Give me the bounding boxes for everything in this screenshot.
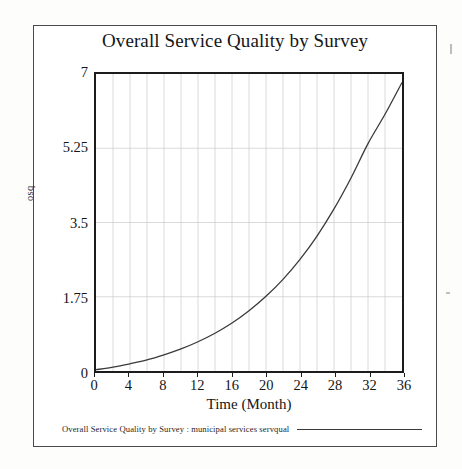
x-tick-label: 12 <box>190 377 205 394</box>
x-tick-mark <box>301 373 302 377</box>
x-tick-mark <box>197 373 198 377</box>
series-line-osq <box>96 74 402 371</box>
y-tick-label: 1.75 <box>36 289 88 306</box>
x-tick-label: 28 <box>328 377 343 394</box>
x-tick-mark <box>232 373 233 377</box>
x-tick-mark <box>370 373 371 377</box>
legend-item-label: Overall Service Quality by Survey : muni… <box>62 424 289 434</box>
x-tick-mark <box>128 373 129 377</box>
x-axis-tick-labels: 04812162024283236 <box>94 377 404 397</box>
x-tick-label: 20 <box>259 377 274 394</box>
y-tick-label: 7 <box>36 64 88 81</box>
plot-inner <box>96 74 402 371</box>
legend: Overall Service Quality by Survey : muni… <box>62 424 422 434</box>
x-tick-mark <box>163 373 164 377</box>
x-axis-title: Time (Month) <box>94 396 404 413</box>
x-tick-mark <box>266 373 267 377</box>
x-tick-mark <box>404 373 405 377</box>
x-tick-label: 24 <box>293 377 308 394</box>
y-axis-title: osq <box>24 186 35 202</box>
scan-artifact-lower <box>446 292 450 294</box>
y-tick-label: 5.25 <box>36 139 88 156</box>
x-tick-label: 32 <box>362 377 377 394</box>
y-tick-label: 3.5 <box>36 214 88 231</box>
x-tick-mark <box>335 373 336 377</box>
x-tick-label: 16 <box>225 377 240 394</box>
x-tick-label: 4 <box>125 377 132 394</box>
x-tick-mark <box>94 373 95 377</box>
x-tick-label: 0 <box>90 377 97 394</box>
chart-title: Overall Service Quality by Survey <box>33 30 437 52</box>
y-tick-label: 0 <box>36 365 88 382</box>
plot-area <box>94 72 404 373</box>
x-tick-label: 8 <box>159 377 166 394</box>
scan-artifact-upper <box>450 44 452 54</box>
x-tick-label: 36 <box>397 377 412 394</box>
y-axis-tick-labels: 01.753.55.257 <box>36 72 88 373</box>
legend-line-swatch <box>297 429 422 430</box>
